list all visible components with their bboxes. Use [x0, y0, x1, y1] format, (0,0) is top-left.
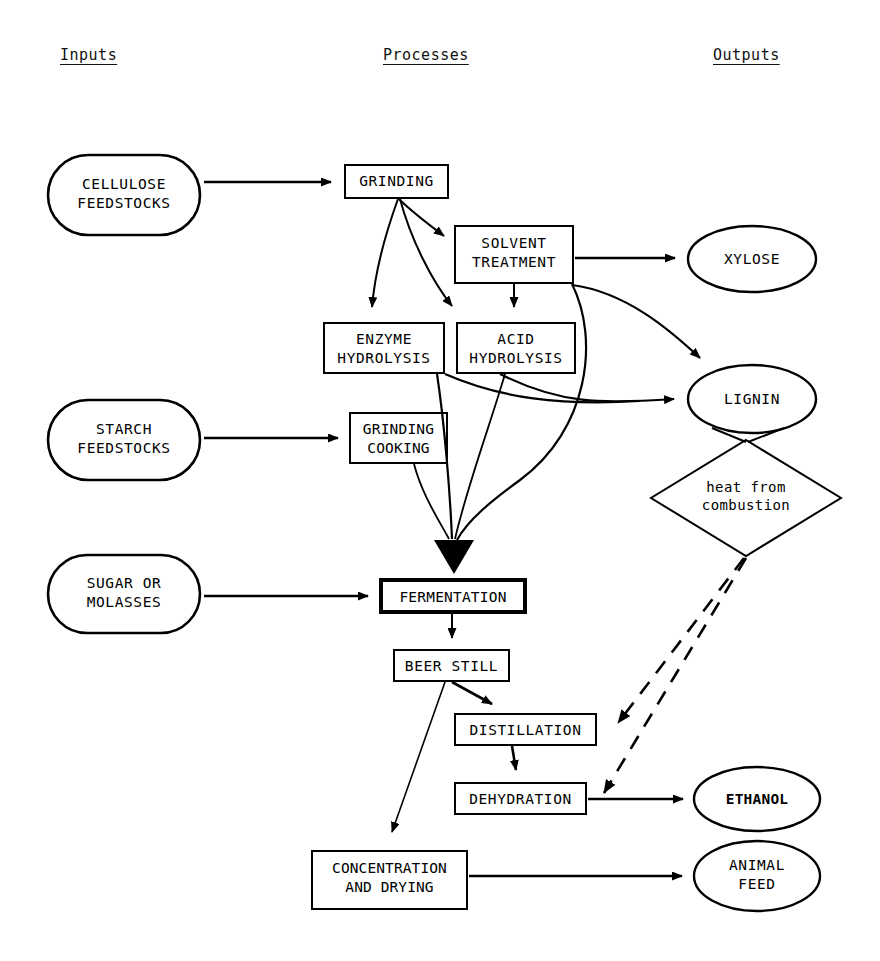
node-shape-sugar-or-molasses[interactable] — [48, 555, 200, 633]
node-shape-dehydration[interactable] — [455, 783, 586, 814]
edge-grinding-cooking-to-fermentation — [414, 464, 449, 539]
edge-enzyme-hydrolysis-to-lignin — [445, 374, 640, 402]
node-shape-starch-feedstocks[interactable] — [48, 400, 200, 480]
edge-heat-to-distillation — [618, 558, 744, 723]
node-shape-lignin[interactable] — [688, 365, 816, 433]
node-shape-enzyme-hydrolysis[interactable] — [324, 323, 444, 373]
edge-beer-still-to-distillation — [452, 682, 492, 704]
node-shape-cellulose-feedstocks[interactable] — [48, 155, 200, 235]
node-shape-grinding[interactable] — [345, 165, 448, 198]
edge-heat-to-dehydration — [604, 558, 746, 793]
node-shape-solvent-treatment[interactable] — [455, 226, 573, 283]
edge-solvent-treatment-to-lignin — [572, 285, 700, 358]
edge-lignin-to-heat-right — [748, 428, 784, 442]
flow-diagram: Inputs Processes Outputs — [0, 0, 880, 961]
edge-enzyme-hydrolysis-to-fermentation — [437, 374, 452, 539]
edge-grinding-to-acid-hydrolysis — [400, 199, 452, 306]
edge-acid-hydrolysis-to-fermentation — [455, 374, 505, 539]
flow-connectors-layer — [0, 0, 880, 961]
node-shape-fermentation[interactable] — [381, 580, 525, 612]
node-shape-acid-hydrolysis[interactable] — [457, 323, 575, 373]
edge-grinding-to-enzyme-hydrolysis — [372, 199, 398, 307]
merged-arrowhead-into-fermentation — [434, 540, 474, 574]
node-shape-concentration-and-drying[interactable] — [312, 851, 467, 909]
node-shape-animal-feed[interactable] — [694, 841, 820, 911]
node-shape-beer-still[interactable] — [394, 650, 509, 681]
node-shape-ethanol[interactable] — [694, 767, 820, 831]
node-shape-distillation[interactable] — [455, 714, 596, 745]
node-shape-heat-from-combustion[interactable] — [651, 440, 841, 556]
node-shape-grinding-cooking[interactable] — [350, 413, 447, 463]
node-shape-xylose[interactable] — [688, 226, 816, 292]
edge-distillation-to-dehydration — [512, 746, 516, 770]
edge-beer-still-to-concentration-drying — [392, 682, 445, 832]
